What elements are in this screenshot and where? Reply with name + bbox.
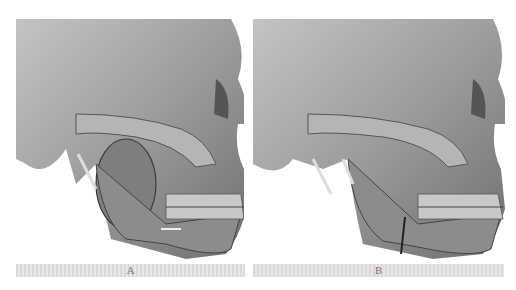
skull-ct-icon <box>253 19 505 259</box>
skull-ct-icon <box>16 19 244 259</box>
panel-a-image <box>16 19 244 259</box>
panel-b-image <box>253 19 505 259</box>
panel-b-label: B <box>253 264 504 277</box>
panel-a-label: A <box>16 264 245 277</box>
